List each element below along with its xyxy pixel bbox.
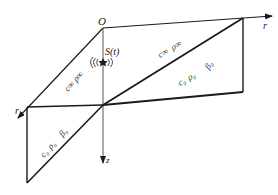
right-top-c: c∞ (156, 46, 170, 60)
z-label: z (105, 155, 110, 165)
left-bottom-rho: ρ₀ (45, 139, 58, 152)
right-bottom-edge (103, 92, 243, 105)
right-bottom-c: c₀ (176, 76, 187, 88)
left-bottom-beta: β₀ (56, 126, 69, 139)
right-top-rho: ρ∞ (168, 38, 183, 53)
right-bottom-rho: ρ₀ (185, 70, 197, 83)
r-right-label: r (263, 20, 267, 31)
right-interface-diagonal (103, 18, 243, 105)
r-axis-right (103, 16, 272, 28)
r-left-label: r (15, 105, 19, 116)
left-bottom-c: c₀ (38, 147, 50, 159)
left-horizontal-edge (27, 105, 103, 107)
source-wave-icon (91, 57, 113, 68)
right-bottom-beta: β₀ (202, 59, 215, 72)
source-label: S(t) (105, 46, 120, 58)
left-interface-diagonal (27, 105, 103, 183)
origin-label: O (98, 15, 106, 27)
r-axis-left (18, 28, 103, 118)
diagram-canvas: O r r z S(t) c∞ ρ∞ c∞ ρ∞ c₀ ρ₀ β₀ c₀ ρ₀ … (0, 0, 278, 195)
